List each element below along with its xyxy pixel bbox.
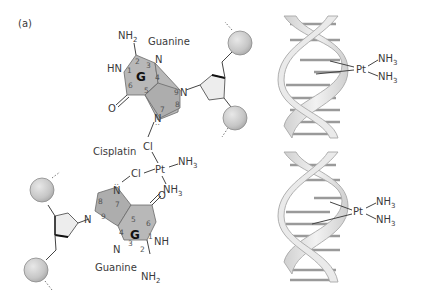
svg-text:1: 1 bbox=[148, 232, 153, 241]
cisplatin-cl-left: Cl bbox=[131, 168, 141, 179]
cisplatin-pt: Pt bbox=[155, 164, 165, 175]
bottom-dna-helix: Pt NH3 NH3 bbox=[278, 152, 395, 282]
svg-text:8: 8 bbox=[175, 100, 180, 109]
svg-text:5: 5 bbox=[131, 215, 136, 224]
bottom-n9-label: N bbox=[84, 214, 91, 225]
svg-text:3: 3 bbox=[146, 61, 151, 70]
svg-text:9: 9 bbox=[174, 88, 179, 97]
svg-text:7: 7 bbox=[160, 105, 165, 114]
svg-text:4: 4 bbox=[119, 228, 124, 237]
svg-text:1: 1 bbox=[127, 66, 132, 75]
bottom-nh-label: NH bbox=[154, 236, 169, 247]
top-amine-label: NH2 bbox=[118, 30, 137, 44]
bottom-oxygen-label: O bbox=[158, 190, 166, 201]
svg-text:4: 4 bbox=[155, 73, 160, 82]
phosphate-bead-icon bbox=[24, 258, 48, 282]
helix-top-pt: Pt bbox=[356, 64, 366, 75]
bottom-guanine-name: Guanine bbox=[95, 262, 137, 273]
top-oxygen-label: O bbox=[108, 103, 116, 114]
cisplatin-name: Cisplatin bbox=[93, 146, 136, 157]
top-dna-helix: Pt NH3 NH3 bbox=[278, 16, 397, 138]
phosphate-bead-icon bbox=[223, 106, 247, 130]
panel-label: (a) bbox=[18, 18, 32, 29]
helix-bottom-nh3-a: NH3 bbox=[376, 196, 395, 210]
svg-text:5: 5 bbox=[144, 86, 149, 95]
helix-top-nh3-b: NH3 bbox=[378, 71, 397, 85]
cisplatin-nh3-b: NH3 bbox=[163, 184, 182, 198]
cisplatin-cl-top: Cl bbox=[143, 141, 153, 152]
svg-text:9: 9 bbox=[101, 212, 106, 221]
helix-top-nh3-a: NH3 bbox=[378, 53, 397, 67]
svg-text:7: 7 bbox=[115, 200, 120, 209]
phosphate-bead-icon bbox=[30, 178, 54, 202]
top-guanine-name: Guanine bbox=[148, 36, 190, 47]
svg-text:6: 6 bbox=[146, 219, 151, 228]
cisplatin-dna-crosslink-figure: (a) NH2 Guanine HN N O N N ·· G 1 2 3 4 … bbox=[0, 0, 423, 303]
svg-text:2: 2 bbox=[140, 245, 145, 254]
bottom-amine-label: NH2 bbox=[141, 271, 160, 285]
top-sugar-backbone bbox=[200, 22, 252, 137]
bottom-n3-label: N bbox=[113, 244, 120, 255]
phosphate-bead-icon bbox=[228, 31, 252, 55]
top-hn-label: HN bbox=[107, 63, 122, 74]
svg-text:2: 2 bbox=[135, 57, 140, 66]
top-n9-label: N bbox=[180, 87, 187, 98]
svg-text:6: 6 bbox=[128, 81, 133, 90]
cisplatin-nh3-a: NH3 bbox=[178, 156, 197, 170]
svg-text:3: 3 bbox=[128, 239, 133, 248]
svg-text:··: ·· bbox=[114, 180, 119, 189]
bottom-sugar-backbone bbox=[24, 172, 78, 290]
svg-text:··: ·· bbox=[155, 120, 160, 129]
bottom-guanine-structure: N ·· O N NH N Guanine NH2 G 1 2 3 4 5 6 … bbox=[78, 180, 169, 285]
svg-text:8: 8 bbox=[98, 197, 103, 206]
helix-bottom-nh3-b: NH3 bbox=[376, 214, 395, 228]
top-guanine-structure: NH2 Guanine HN N O N N ·· G 1 2 3 4 5 6 … bbox=[107, 30, 200, 137]
helix-bottom-pt: Pt bbox=[353, 206, 363, 217]
top-n3-label: N bbox=[155, 54, 162, 65]
top-guanine-g-letter: G bbox=[136, 70, 146, 84]
